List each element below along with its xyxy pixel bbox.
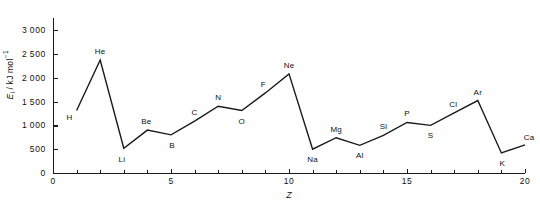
point-label-h: H — [67, 112, 73, 121]
point-label-b: B — [169, 140, 175, 149]
point-label-si: Si — [380, 122, 388, 131]
point-label-be: Be — [141, 117, 151, 126]
point-label-ar: Ar — [474, 87, 482, 96]
x-tick-label-20: 20 — [520, 176, 530, 186]
y-tick-label-1000: 1 000 — [2, 120, 46, 130]
point-label-n: N — [215, 93, 221, 102]
y-tick-label-2000: 2 000 — [2, 73, 46, 83]
x-tick-label-10: 10 — [284, 176, 294, 186]
point-label-cl: Cl — [449, 99, 457, 108]
x-tick-20 — [525, 169, 526, 173]
point-label-al: Al — [356, 151, 364, 160]
y-tick-label-3000: 3 000 — [2, 25, 46, 35]
y-tick-label-0: 0 — [2, 168, 46, 178]
x-tick-label-5: 5 — [168, 176, 173, 186]
y-tick-label-2500: 2 500 — [2, 49, 46, 59]
point-label-k: K — [500, 158, 506, 167]
point-label-c: C — [192, 108, 198, 117]
data-polyline — [77, 60, 525, 153]
point-label-ne: Ne — [284, 60, 295, 69]
x-tick-label-15: 15 — [402, 176, 412, 186]
point-label-s: S — [428, 131, 434, 140]
point-label-li: Li — [118, 155, 125, 164]
y-tick-0 — [54, 173, 58, 174]
ionization-energy-chart: Ei / kJ mol−1 Z 05001 0001 5002 0002 500… — [0, 0, 540, 211]
y-tick-label-1500: 1 500 — [2, 97, 46, 107]
plot-area: HHeLiBeBCNOFNeNaMgAlSiPSClArKCa — [53, 30, 525, 173]
y-tick-label-500: 500 — [2, 144, 46, 154]
point-label-he: He — [95, 47, 106, 56]
point-label-o: O — [239, 116, 245, 125]
x-axis-title: Z — [286, 190, 292, 200]
point-label-f: F — [261, 79, 266, 88]
point-label-p: P — [404, 109, 410, 118]
x-tick-label-0: 0 — [50, 176, 55, 186]
point-label-mg: Mg — [330, 124, 342, 133]
point-label-ca: Ca — [524, 132, 535, 141]
point-label-na: Na — [307, 155, 318, 164]
